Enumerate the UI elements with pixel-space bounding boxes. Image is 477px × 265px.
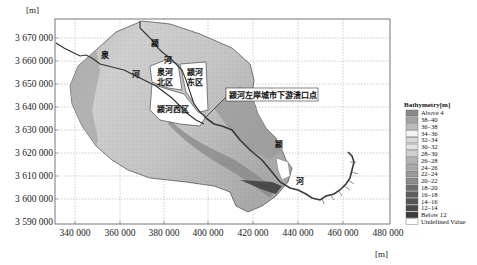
river-label-he-2: 河	[164, 55, 172, 65]
legend-swatch	[406, 110, 418, 116]
y-unit-label: [m]	[26, 5, 39, 15]
svg-text:360 000: 360 000	[105, 228, 136, 238]
x-unit-label: [m]	[375, 249, 388, 259]
legend-swatch	[406, 124, 418, 130]
svg-text:3 590 000: 3 590 000	[15, 217, 53, 227]
legend-swatch	[406, 158, 418, 164]
legend-title: Bathymetry[m]	[404, 101, 450, 109]
svg-text:3 660 000: 3 660 000	[15, 56, 53, 66]
legend-swatch	[406, 151, 418, 157]
legend-swatch	[406, 137, 418, 143]
svg-text:3 640 000: 3 640 000	[15, 102, 53, 112]
legend-swatch	[406, 212, 418, 218]
region-label-quanhe-north-2: 北区	[157, 77, 173, 87]
legend-label: Undefined Value	[421, 218, 465, 225]
region-label-yinghe-east-2: 东区	[187, 77, 203, 87]
legend-swatch	[406, 198, 418, 204]
legend-swatch	[406, 130, 418, 136]
river-label-ying-2: 颍	[274, 139, 283, 149]
y-axis-ticks: 3 670 000 3 660 000 3 650 000 3 640 000 …	[15, 33, 53, 227]
svg-text:380 000: 380 000	[149, 228, 180, 238]
legend: Bathymetry[m] Above 438–4036–3834–3632–3…	[404, 101, 465, 225]
legend-swatch	[406, 185, 418, 191]
legend-swatch	[406, 117, 418, 123]
callout-text: 颍河左岸城市下游溃口点	[228, 90, 317, 100]
legend-swatch	[406, 219, 418, 225]
svg-text:3 600 000: 3 600 000	[15, 194, 53, 204]
legend-swatch	[406, 178, 418, 184]
region-label-quanhe-north-1: 泉河	[156, 67, 173, 77]
legend-swatch	[406, 205, 418, 211]
legend-swatch	[406, 164, 418, 170]
svg-text:3 620 000: 3 620 000	[15, 148, 53, 158]
region-label-yinghe-east-1: 颍河	[186, 67, 203, 77]
svg-text:3 670 000: 3 670 000	[15, 33, 53, 43]
river-label-quan: 泉	[100, 50, 110, 60]
x-axis-ticks: 340 000 360 000 380 000 400 000 420 000 …	[60, 228, 404, 238]
river-label-ying-1: 颍	[150, 38, 159, 48]
svg-text:340 000: 340 000	[60, 228, 91, 238]
svg-text:460 000: 460 000	[328, 228, 359, 238]
svg-text:440 000: 440 000	[283, 228, 314, 238]
svg-text:420 000: 420 000	[238, 228, 269, 238]
river-label-he-3: 河	[296, 176, 304, 186]
bathymetry-map: [m] [m]	[0, 0, 477, 265]
svg-text:400 000: 400 000	[193, 228, 224, 238]
legend-swatch	[406, 144, 418, 150]
legend-swatch	[406, 192, 418, 198]
svg-text:3 630 000: 3 630 000	[15, 125, 53, 135]
river-label-he-1: 河	[132, 69, 140, 79]
legend-swatch	[406, 171, 418, 177]
svg-text:3 650 000: 3 650 000	[15, 79, 53, 89]
svg-text:3 610 000: 3 610 000	[15, 171, 53, 181]
region-label-yinghe-west: 颍河西区	[156, 104, 189, 114]
svg-text:480 000: 480 000	[373, 228, 404, 238]
